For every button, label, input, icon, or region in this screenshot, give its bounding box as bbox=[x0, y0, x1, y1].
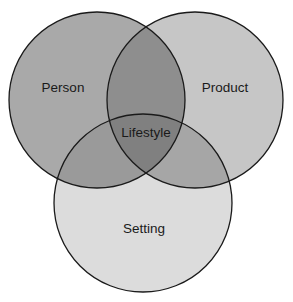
venn-diagram: Person Product Setting Lifestyle bbox=[0, 0, 293, 302]
setting-label: Setting bbox=[123, 221, 165, 236]
person-label: Person bbox=[42, 80, 85, 95]
product-label: Product bbox=[202, 80, 249, 95]
lifestyle-label: Lifestyle bbox=[121, 125, 171, 140]
